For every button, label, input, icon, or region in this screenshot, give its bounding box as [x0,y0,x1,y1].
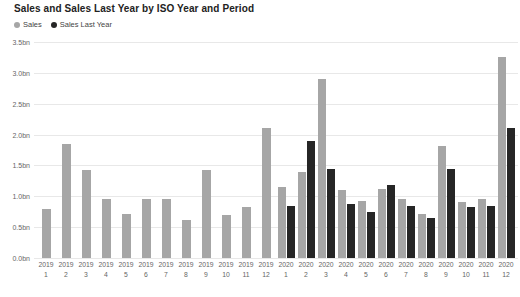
bar[interactable] [42,209,51,258]
y-axis-tick-label: 3.5bn [12,39,30,46]
bar[interactable] [387,185,395,258]
x-axis-tick-label: 20195 [116,260,136,280]
x-axis-period: 6 [136,270,156,280]
bar-group [116,38,136,258]
bar[interactable] [262,128,271,258]
bar-group [176,38,196,258]
bar[interactable] [358,201,366,258]
x-axis-period: 7 [396,270,416,280]
bar[interactable] [278,187,286,258]
bar-group [396,38,416,258]
x-axis-year: 2020 [396,260,416,270]
bar-group [96,38,116,258]
bar[interactable] [498,57,506,258]
x-axis-period: 2 [296,270,316,280]
x-axis-year: 2019 [236,260,256,270]
bar-groups [34,38,518,258]
x-axis-period: 9 [196,270,216,280]
bar[interactable] [242,207,251,258]
x-axis-period: 1 [276,270,296,280]
x-axis-tick-label: 20191 [36,260,56,280]
y-axis-tick-label: 2.5bn [12,100,30,107]
x-axis-tick-label: 202012 [496,260,516,280]
bar[interactable] [222,215,231,258]
x-axis-tick-label: 20197 [156,260,176,280]
bar[interactable] [398,199,406,258]
bar-group [436,38,456,258]
x-axis-year: 2020 [356,260,376,270]
x-axis-year: 2020 [296,260,316,270]
x-axis-year: 2020 [336,260,356,270]
bar[interactable] [347,204,355,258]
bar[interactable] [458,202,466,258]
bar[interactable] [407,206,415,258]
bar[interactable] [307,141,315,258]
x-axis-year: 2020 [496,260,516,270]
chart-plot-area [34,0,518,297]
x-axis-period: 10 [216,270,236,280]
bar[interactable] [447,169,455,258]
bar-group [376,38,396,258]
x-axis-period: 8 [176,270,196,280]
x-axis-period: 7 [156,270,176,280]
bar[interactable] [162,199,171,258]
x-axis-tick-label: 202010 [456,260,476,280]
bar[interactable] [487,206,495,258]
bar-group [236,38,256,258]
bar[interactable] [287,206,295,258]
bar[interactable] [378,189,386,258]
bar[interactable] [507,128,515,258]
x-axis-year: 2019 [76,260,96,270]
x-axis-tick-label: 20196 [136,260,156,280]
bar[interactable] [427,218,435,258]
x-axis-year: 2020 [436,260,456,270]
bar[interactable] [182,220,191,258]
x-axis-tick-label: 20207 [396,260,416,280]
y-axis-tick-label: 0.0bn [12,255,30,262]
chart-card: Sales and Sales Last Year by ISO Year an… [0,0,520,297]
bar-group [36,38,56,258]
x-axis-period: 1 [36,270,56,280]
x-axis-year: 2019 [256,260,276,270]
x-axis-year: 2020 [476,260,496,270]
x-axis-year: 2020 [416,260,436,270]
bar-group [416,38,436,258]
bar[interactable] [122,214,131,258]
x-axis-tick-label: 202011 [476,260,496,280]
x-axis-year: 2019 [56,260,76,270]
bar[interactable] [62,144,71,258]
bar[interactable] [82,170,91,258]
x-axis-year: 2019 [156,260,176,270]
x-axis-tick-label: 20199 [196,260,216,280]
bar[interactable] [142,199,151,258]
x-axis-period: 12 [496,270,516,280]
x-axis-year: 2020 [456,260,476,270]
x-axis-tick-label: 20209 [436,260,456,280]
x-axis-year: 2019 [116,260,136,270]
bar-group [276,38,296,258]
bar[interactable] [102,199,111,258]
bar[interactable] [318,79,326,258]
y-axis-tick-label: 0.5bn [12,224,30,231]
bar[interactable] [327,169,335,258]
x-axis-period: 2 [56,270,76,280]
bar[interactable] [367,212,375,258]
bar[interactable] [438,146,446,258]
bar[interactable] [202,170,211,258]
bar[interactable] [418,214,426,258]
x-axis-period: 8 [416,270,436,280]
x-axis-tick-label: 20198 [176,260,196,280]
bar[interactable] [467,207,475,258]
x-axis-period: 11 [476,270,496,280]
bar-group [316,38,336,258]
x-axis-tick-label: 20204 [336,260,356,280]
x-axis-year: 2019 [196,260,216,270]
bar[interactable] [298,172,306,258]
x-axis-year: 2020 [376,260,396,270]
x-axis-period: 10 [456,270,476,280]
bar-group [476,38,496,258]
x-axis-tick-label: 20203 [316,260,336,280]
bar[interactable] [338,190,346,258]
x-axis-year: 2019 [96,260,116,270]
bar[interactable] [478,199,486,258]
